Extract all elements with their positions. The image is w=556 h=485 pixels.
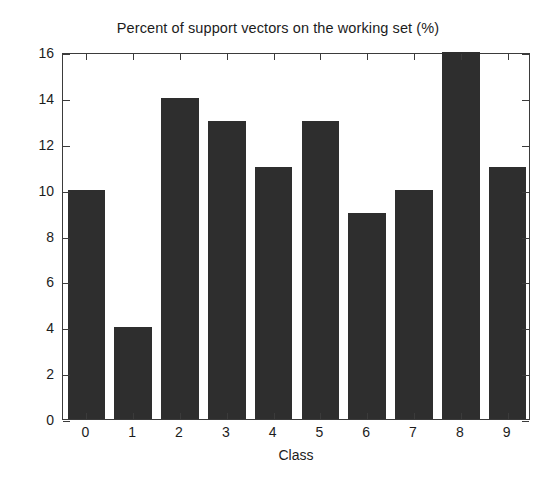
x-tick-label: 9 (503, 424, 511, 440)
y-tick-mark (522, 238, 529, 239)
x-tick-mark (461, 413, 462, 419)
x-tick-label: 2 (175, 424, 183, 440)
y-tick-label: 14 (38, 91, 54, 107)
bar-class-3 (208, 121, 245, 419)
x-tick-label: 7 (409, 424, 417, 440)
plot-area (62, 53, 530, 420)
x-tick-mark (180, 413, 181, 419)
y-tick-mark (63, 54, 70, 55)
y-tick-mark (522, 329, 529, 330)
y-tick-mark (63, 192, 70, 193)
bar-class-1 (114, 327, 151, 419)
y-tick-mark (63, 329, 70, 330)
x-tick-mark (414, 54, 415, 60)
x-axis-title: Class (62, 447, 530, 463)
y-axis-tick-labels: 0246810121416 (8, 53, 54, 420)
y-tick-label: 4 (46, 320, 54, 336)
x-tick-mark (508, 54, 509, 60)
x-tick-mark (227, 54, 228, 60)
y-tick-label: 8 (46, 229, 54, 245)
chart-figure: Percent of support vectors on the workin… (0, 0, 556, 485)
x-tick-mark (86, 413, 87, 419)
bar-class-7 (395, 190, 432, 419)
y-tick-mark (63, 375, 70, 376)
bar-class-6 (348, 213, 385, 419)
y-tick-label: 16 (38, 45, 54, 61)
x-tick-mark (461, 54, 462, 60)
x-tick-mark (508, 413, 509, 419)
y-tick-label: 0 (46, 412, 54, 428)
y-tick-label: 12 (38, 137, 54, 153)
y-tick-label: 6 (46, 274, 54, 290)
x-axis-tick-labels: 0123456789 (62, 424, 530, 446)
y-tick-mark (63, 421, 70, 422)
y-tick-mark (522, 375, 529, 376)
x-tick-mark (367, 54, 368, 60)
x-tick-mark (274, 54, 275, 60)
y-tick-label: 2 (46, 366, 54, 382)
bar-class-2 (161, 98, 198, 419)
x-tick-label: 5 (315, 424, 323, 440)
x-tick-mark (227, 413, 228, 419)
bar-class-5 (302, 121, 339, 419)
bars-layer (63, 54, 529, 419)
x-tick-mark (367, 413, 368, 419)
x-tick-label: 0 (81, 424, 89, 440)
bar-class-4 (255, 167, 292, 419)
x-tick-label: 1 (128, 424, 136, 440)
x-tick-label: 6 (362, 424, 370, 440)
x-tick-label: 4 (269, 424, 277, 440)
y-tick-mark (522, 192, 529, 193)
y-tick-mark (63, 100, 70, 101)
x-tick-mark (133, 54, 134, 60)
y-tick-mark (63, 238, 70, 239)
y-tick-mark (522, 146, 529, 147)
y-tick-mark (522, 54, 529, 55)
y-tick-label: 10 (38, 183, 54, 199)
chart-title: Percent of support vectors on the workin… (0, 20, 556, 36)
x-tick-mark (320, 54, 321, 60)
x-tick-mark (414, 413, 415, 419)
bar-class-0 (68, 190, 105, 419)
y-tick-mark (522, 421, 529, 422)
x-tick-mark (133, 413, 134, 419)
bar-class-9 (489, 167, 526, 419)
x-tick-mark (274, 413, 275, 419)
x-tick-label: 3 (222, 424, 230, 440)
x-tick-mark (86, 54, 87, 60)
x-tick-mark (180, 54, 181, 60)
x-tick-label: 8 (456, 424, 464, 440)
x-tick-mark (320, 413, 321, 419)
y-tick-mark (63, 283, 70, 284)
bar-class-8 (442, 52, 479, 419)
y-tick-mark (63, 146, 70, 147)
y-tick-mark (522, 100, 529, 101)
y-tick-mark (522, 283, 529, 284)
